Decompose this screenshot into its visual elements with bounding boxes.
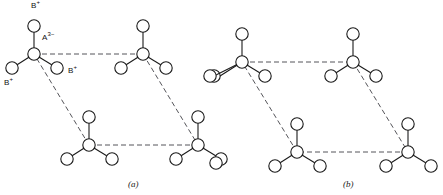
- label-cation-lower-left: B+: [4, 78, 13, 87]
- cation-circle-left: [380, 160, 392, 172]
- cation-circle-top: [402, 118, 414, 130]
- crystal-structure-diagram: [0, 0, 443, 195]
- cation-circle-top: [347, 28, 359, 40]
- anion-circle: [137, 48, 149, 60]
- tetrahedral-unit: [269, 118, 326, 172]
- cation-circle-right: [106, 153, 118, 165]
- anion-circle: [402, 146, 414, 158]
- cation-circle-left: [115, 62, 127, 74]
- anion-circle: [28, 48, 40, 60]
- cation-circle-top: [291, 118, 303, 130]
- cation-circle-left: [61, 153, 73, 165]
- figure-container: B+ A3− B+ B+ (a) (b): [0, 0, 443, 195]
- cation-circle-left: [170, 153, 182, 165]
- cation-circle-top: [83, 111, 95, 123]
- tetrahedral-unit: [325, 28, 382, 82]
- cation-circle-right: [314, 160, 326, 172]
- tetrahedral-unit: [380, 118, 437, 172]
- cation-circle-right: [370, 70, 382, 82]
- anion-circle: [83, 139, 95, 151]
- anion-circle: [347, 56, 359, 68]
- cation-circle-right: [51, 62, 63, 74]
- panel-b: [208, 28, 437, 172]
- caption-panel-a: (a): [128, 179, 139, 189]
- cation-circle-left: [269, 160, 281, 172]
- cation-circle-edge-lower: [210, 157, 222, 169]
- tetrahedral-unit: [115, 20, 172, 74]
- label-anion-center: A3−: [42, 33, 55, 42]
- label-cation-top: B+: [31, 1, 40, 10]
- cation-circle-right: [259, 70, 271, 82]
- tetrahedral-unit: [6, 20, 63, 74]
- anion-circle: [291, 146, 303, 158]
- cation-circle-top: [236, 28, 248, 40]
- panel-a-edge-fragment: [204, 70, 216, 82]
- panel-a: [6, 20, 227, 165]
- caption-panel-b: (b): [343, 179, 354, 189]
- anion-circle: [192, 139, 204, 151]
- cation-circle-left: [325, 70, 337, 82]
- tetrahedral-unit: [61, 111, 118, 165]
- anion-circle: [236, 56, 248, 68]
- cation-circle-right: [425, 160, 437, 172]
- cation-circle-left: [6, 62, 18, 74]
- cation-circle-right: [160, 62, 172, 74]
- cation-circle-top: [192, 111, 204, 123]
- cation-circle-top: [28, 20, 40, 32]
- tetrahedral-unit: [220, 28, 271, 82]
- cation-circle-top: [137, 20, 149, 32]
- cation-circle-edge: [204, 70, 216, 82]
- label-cation-lower-right: B+: [68, 66, 77, 75]
